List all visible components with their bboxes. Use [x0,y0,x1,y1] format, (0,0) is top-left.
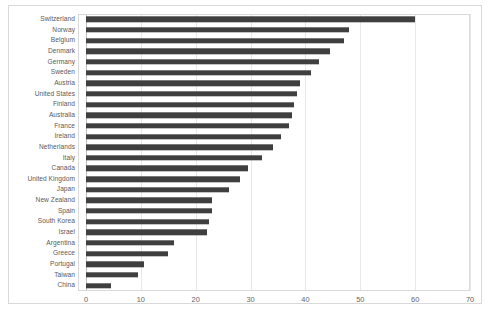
bar[interactable] [86,155,262,160]
category-label: United States [35,91,75,98]
bar-row: Sweden [78,67,470,78]
bar[interactable] [86,208,212,213]
bar-row: Netherlands [78,142,470,153]
bar-row: Switzerland [78,14,470,25]
bar-row: Germany [78,57,470,68]
bar-row: Norway [78,25,470,36]
x-tick-label: 40 [301,296,309,303]
category-label: Spain [58,208,75,215]
bar-row: Argentina [78,238,470,249]
bar-row: Portugal [78,259,470,270]
bar[interactable] [86,240,174,245]
bar-row: Finland [78,99,470,110]
bar[interactable] [86,81,300,86]
bar[interactable] [86,176,240,181]
gridline-70 [470,14,471,291]
bar[interactable] [86,112,292,117]
bar[interactable] [86,49,330,54]
bar-row: France [78,121,470,132]
bar-row: United States [78,89,470,100]
category-label: Japan [57,186,75,193]
category-label: Norway [52,27,75,34]
category-label: Canada [52,165,75,172]
bar[interactable] [86,262,144,267]
category-label: Switzerland [40,16,75,23]
x-tick-label: 20 [192,296,200,303]
category-label: Australia [49,112,75,119]
bar[interactable] [86,102,294,107]
bar[interactable] [86,59,319,64]
bar-series: SwitzerlandNorwayBelgiumDenmarkGermanySw… [78,14,470,291]
category-label: Italy [63,155,75,162]
bar-row: Italy [78,153,470,164]
bar[interactable] [86,144,273,149]
bar[interactable] [86,17,415,22]
x-tick-label: 60 [411,296,419,303]
bar-row: Greece [78,248,470,259]
category-label: New Zealand [36,197,75,204]
bar-row: Spain [78,206,470,217]
category-label: United Kingdom [27,176,75,183]
category-label: Austria [54,80,75,87]
bar[interactable] [86,187,229,192]
bar[interactable] [86,70,311,75]
category-label: Germany [48,59,75,66]
bar[interactable] [86,283,111,288]
bar-row: New Zealand [78,195,470,206]
chart-frame: 010203040506070 SwitzerlandNorwayBelgium… [8,5,482,304]
bar[interactable] [86,198,212,203]
category-label: Belgium [51,37,75,44]
category-label: Taiwan [54,272,75,279]
bar[interactable] [86,91,297,96]
category-label: Finland [53,101,75,108]
bar[interactable] [86,219,209,224]
bar-row: Austria [78,78,470,89]
category-label: Greece [53,250,75,257]
bar-row: Ireland [78,131,470,142]
category-label: Sweden [51,69,75,76]
bar-row: South Korea [78,216,470,227]
category-label: Denmark [48,48,75,55]
category-label: Netherlands [39,144,75,151]
x-tick-label: 30 [246,296,254,303]
category-label: China [58,282,75,289]
category-label: South Korea [38,218,75,225]
bar[interactable] [86,272,138,277]
bar[interactable] [86,38,344,43]
bar-row: Canada [78,163,470,174]
x-tick-label: 10 [137,296,145,303]
category-label: Argentina [46,240,75,247]
bar-row: Belgium [78,35,470,46]
plot-area: 010203040506070 SwitzerlandNorwayBelgium… [78,14,470,291]
category-label: Israel [59,229,75,236]
bar-row: Taiwan [78,270,470,281]
bar[interactable] [86,134,281,139]
bar-row: United Kingdom [78,174,470,185]
x-tick-label: 0 [84,296,88,303]
x-tick-label: 50 [356,296,364,303]
bar-row: Israel [78,227,470,238]
bar[interactable] [86,166,248,171]
bar-row: China [78,280,470,291]
category-label: Ireland [54,133,75,140]
bar[interactable] [86,27,349,32]
bar[interactable] [86,230,207,235]
category-label: Portugal [50,261,75,268]
bar-row: Denmark [78,46,470,57]
bar[interactable] [86,251,168,256]
bar-row: Australia [78,110,470,121]
x-tick-label: 70 [466,296,474,303]
bar-row: Japan [78,184,470,195]
bar[interactable] [86,123,289,128]
category-label: France [54,123,75,130]
